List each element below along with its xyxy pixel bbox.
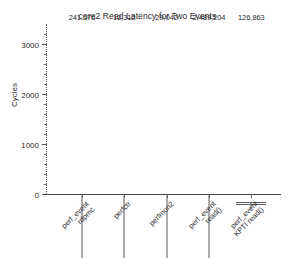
x-tick-label-3: perf_eventread() <box>187 200 224 237</box>
x-tick <box>167 194 168 198</box>
count-annotation: 241,576 <box>69 13 96 22</box>
y-tick-0: 0 <box>42 194 47 195</box>
count-annotation: 12,312 <box>113 13 136 22</box>
x-tick <box>82 194 83 198</box>
y-minor-tick <box>44 124 47 125</box>
x-tick-label-0: perf_eventrdpmc <box>60 200 97 237</box>
y-minor-tick <box>44 174 47 175</box>
x-tick <box>209 194 210 198</box>
y-minor-tick <box>44 164 47 165</box>
y-minor-tick <box>44 114 47 115</box>
x-tick <box>251 194 252 198</box>
y-tick-label-0: 0 <box>35 191 39 200</box>
x-tick-label-2: perfmon2 <box>148 200 176 228</box>
y-minor-tick <box>44 104 47 105</box>
y-axis-label: Cycles <box>10 83 19 107</box>
y-tick-label-2000: 2000 <box>21 91 39 100</box>
y-tick-1000: 1000 <box>42 144 47 145</box>
chart-container: core2 Read Latency for Two Events Cycles… <box>0 0 295 258</box>
y-minor-tick <box>44 184 47 185</box>
x-tick <box>124 194 125 198</box>
y-tick-label-3000: 3000 <box>21 41 39 50</box>
y-minor-tick <box>44 54 47 55</box>
y-minor-tick <box>44 74 47 75</box>
x-label-line: perfmon2 <box>148 200 176 228</box>
plot-area: 0100020003000 241,57612,31229,0422,489,2… <box>46 24 281 194</box>
y-minor-tick <box>44 34 47 35</box>
y-minor-tick <box>44 84 47 85</box>
y-tick-2000: 2000 <box>42 94 47 95</box>
x-tick-label-4: perf_eventKPTI read() <box>227 200 266 239</box>
y-minor-tick <box>44 64 47 65</box>
y-minor-tick <box>44 154 47 155</box>
y-minor-tick <box>44 134 47 135</box>
count-annotation: 29,042 <box>155 13 178 22</box>
y-tick-3000: 3000 <box>42 44 47 45</box>
count-annotation: 2,489,204 <box>193 13 226 22</box>
count-annotation: 126,863 <box>238 13 265 22</box>
y-tick-label-1000: 1000 <box>21 141 39 150</box>
y-axis-line <box>46 24 47 194</box>
